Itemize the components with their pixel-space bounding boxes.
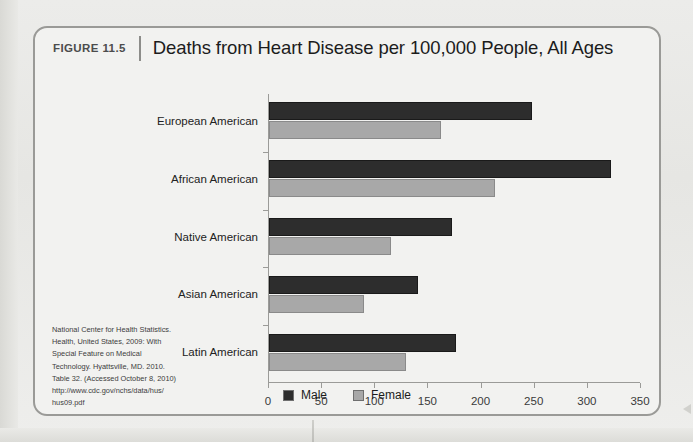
bar-group: Native American bbox=[269, 218, 641, 255]
bar-male bbox=[269, 334, 456, 352]
page-edge-left bbox=[0, 0, 18, 442]
figure-number: FIGURE 11.5 bbox=[53, 42, 126, 54]
category-label: Native American bbox=[174, 231, 258, 243]
bar-female bbox=[269, 121, 441, 139]
chart-plot-area: European AmericanAfrican AmericanNative … bbox=[268, 94, 640, 383]
figure-title: Deaths from Heart Disease per 100,000 Pe… bbox=[153, 37, 613, 59]
page-fold-mark bbox=[312, 420, 314, 442]
source-line: Table 32. (Accessed October 8, 2010) bbox=[52, 373, 204, 385]
figure-header-divider bbox=[139, 36, 141, 61]
legend-swatch-male bbox=[283, 390, 294, 401]
category-label: Latin American bbox=[182, 346, 258, 358]
y-tick bbox=[263, 267, 268, 268]
y-tick bbox=[263, 325, 268, 326]
page-edge-bottom bbox=[0, 428, 693, 442]
legend-item-female: Female bbox=[353, 388, 411, 402]
legend-label-male: Male bbox=[301, 388, 327, 402]
y-tick bbox=[263, 210, 268, 211]
bar-female bbox=[269, 353, 406, 371]
legend-label-female: Female bbox=[371, 388, 411, 402]
category-label: European American bbox=[157, 115, 258, 127]
bar-male bbox=[269, 276, 418, 294]
category-label: African American bbox=[171, 173, 258, 185]
x-axis-line bbox=[268, 382, 640, 383]
bar-group: Latin American bbox=[269, 334, 641, 371]
bar-female bbox=[269, 295, 364, 313]
category-label: Asian American bbox=[178, 288, 258, 300]
bar-female bbox=[269, 179, 495, 197]
bar-group: Asian American bbox=[269, 276, 641, 313]
bar-male bbox=[269, 160, 611, 178]
bar-group: African American bbox=[269, 160, 641, 197]
legend-item-male: Male bbox=[283, 388, 327, 402]
bar-male bbox=[269, 102, 532, 120]
bar-group: European American bbox=[269, 102, 641, 139]
source-line: National Center for Health Statistics. bbox=[52, 324, 204, 336]
chart-legend: Male Female bbox=[35, 388, 659, 402]
figure-header: FIGURE 11.5 Deaths from Heart Disease pe… bbox=[35, 28, 659, 68]
figure-card: FIGURE 11.5 Deaths from Heart Disease pe… bbox=[33, 26, 661, 416]
bar-male bbox=[269, 218, 452, 236]
y-tick bbox=[263, 152, 268, 153]
bar-female bbox=[269, 237, 391, 255]
source-line: Technology. Hyattsville, MD. 2010. bbox=[52, 361, 204, 373]
legend-swatch-female bbox=[353, 390, 364, 401]
